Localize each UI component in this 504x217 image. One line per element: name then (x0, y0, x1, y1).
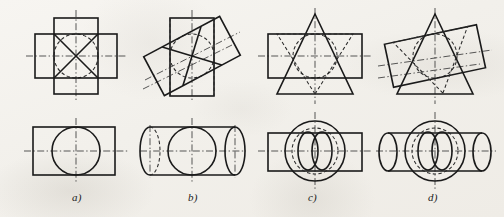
panel-d-caption: d) (428, 191, 438, 203)
panel-d-front-hidden-inverted-triangle (393, 27, 480, 101)
panel-a-top-view (24, 118, 128, 184)
panel-d-top-view (376, 112, 496, 190)
panel-c-caption: c) (308, 191, 317, 203)
panel-c-top-view (258, 112, 372, 190)
panel-d-top-right-ellipse (473, 133, 491, 171)
panel-d-front-view (378, 8, 492, 104)
panel-d-top-left-ellipse (379, 133, 397, 171)
panel-c-front-view (258, 8, 372, 104)
panel-b-top-view (140, 118, 246, 184)
figure-drawing-canvas: .solid { fill:none; stroke:#1a1a1a; stro… (0, 0, 504, 217)
panel-b-caption: b) (188, 191, 198, 203)
engineering-drawing-figure: .solid { fill:none; stroke:#1a1a1a; stro… (0, 0, 504, 217)
panel-a-front-view (26, 10, 126, 102)
panel-b-front-view (143, 10, 240, 102)
panel-d-front-rotated-rectangle (384, 25, 485, 88)
panel-d-front-hidden-triangle-group (393, 27, 480, 101)
panel-d-front-rotated-rectangle-group (384, 25, 485, 88)
panel-a-caption: a) (72, 191, 82, 203)
